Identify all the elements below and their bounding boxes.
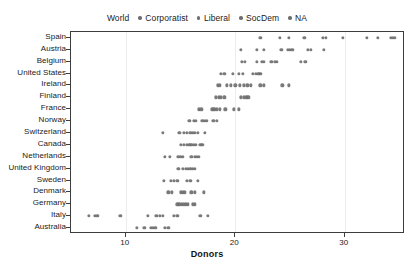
data-point[interactable] [168, 155, 171, 158]
data-point[interactable] [262, 48, 265, 51]
data-point[interactable] [259, 72, 262, 75]
data-point[interactable] [262, 60, 265, 63]
y-axis-tick-label: Spain [45, 33, 66, 41]
y-axis-tick [66, 96, 70, 97]
data-point[interactable] [206, 215, 209, 218]
data-point[interactable] [225, 84, 228, 87]
data-point[interactable] [162, 179, 165, 182]
data-point[interactable] [146, 215, 149, 218]
data-point[interactable] [194, 143, 197, 146]
x-axis-title: Donors [0, 249, 414, 259]
data-point[interactable] [259, 36, 262, 39]
data-point[interactable] [193, 203, 196, 206]
y-axis-tick-label: Netherlands [22, 152, 66, 160]
data-point[interactable] [218, 84, 221, 87]
data-point[interactable] [223, 72, 226, 75]
data-point[interactable] [287, 36, 290, 39]
data-point[interactable] [324, 36, 327, 39]
legend-title: World [107, 13, 130, 23]
data-point[interactable] [247, 96, 250, 99]
y-axis-tick-label: Belgium [37, 57, 66, 65]
data-point[interactable] [229, 84, 232, 87]
data-point[interactable] [287, 84, 290, 87]
data-point[interactable] [256, 60, 259, 63]
data-point[interactable] [154, 226, 157, 229]
data-point[interactable] [183, 191, 186, 194]
data-point[interactable] [196, 179, 199, 182]
data-point[interactable] [239, 48, 242, 51]
data-point[interactable] [161, 215, 164, 218]
data-point[interactable] [193, 167, 196, 170]
data-point[interactable] [205, 119, 208, 122]
data-point[interactable] [393, 36, 396, 39]
data-point[interactable] [181, 155, 184, 158]
y-axis-tick [66, 108, 70, 109]
data-point[interactable] [243, 60, 246, 63]
x-axis-tick-label: 30 [339, 238, 348, 247]
data-point[interactable] [164, 155, 167, 158]
data-point[interactable] [177, 167, 180, 170]
data-point[interactable] [275, 60, 278, 63]
data-point[interactable] [200, 108, 203, 111]
data-point[interactable] [365, 36, 368, 39]
x-axis-tick [125, 233, 126, 237]
data-point[interactable] [188, 119, 191, 122]
data-point[interactable] [218, 108, 221, 111]
legend-entry-corporatist[interactable]: Corporatist [138, 13, 188, 23]
data-point[interactable] [189, 179, 192, 182]
data-point[interactable] [197, 155, 200, 158]
y-axis-tick-label: Denmark [33, 187, 66, 195]
data-point[interactable] [119, 215, 122, 218]
data-point[interactable] [143, 226, 146, 229]
data-point[interactable] [96, 215, 99, 218]
legend-entry-liberal[interactable]: Liberal [197, 13, 230, 23]
data-point[interactable] [237, 108, 240, 111]
legend-entry-socdem[interactable]: SocDem [239, 13, 279, 23]
data-point[interactable] [309, 48, 312, 51]
y-axis-tick [66, 84, 70, 85]
data-point[interactable] [322, 48, 325, 51]
data-point[interactable] [249, 84, 252, 87]
data-point[interactable] [170, 191, 173, 194]
data-point[interactable] [234, 84, 237, 87]
data-point[interactable] [256, 48, 259, 51]
data-point[interactable] [231, 72, 234, 75]
x-axis-tick-label: 20 [230, 238, 239, 247]
data-point[interactable] [176, 215, 179, 218]
data-point[interactable] [194, 119, 197, 122]
data-point[interactable] [279, 36, 282, 39]
data-point[interactable] [196, 131, 199, 134]
data-point[interactable] [167, 226, 170, 229]
data-point[interactable] [135, 226, 138, 229]
y-axis-tick [66, 144, 70, 145]
data-point[interactable] [201, 143, 204, 146]
data-point[interactable] [176, 179, 179, 182]
y-axis: SpainAustriaBelgiumUnited StatesIrelandF… [0, 31, 66, 233]
data-point[interactable] [178, 131, 181, 134]
legend-entry-na[interactable]: NA [288, 13, 307, 23]
y-axis-tick [66, 73, 70, 74]
data-point[interactable] [376, 36, 379, 39]
data-point[interactable] [161, 131, 164, 134]
data-point[interactable] [187, 203, 190, 206]
data-point[interactable] [193, 191, 196, 194]
data-point[interactable] [281, 84, 284, 87]
data-point[interactable] [241, 72, 244, 75]
data-point[interactable] [341, 36, 344, 39]
data-point[interactable] [304, 60, 307, 63]
data-point[interactable] [303, 36, 306, 39]
data-point[interactable] [87, 215, 90, 218]
data-point[interactable] [238, 84, 241, 87]
gridline [126, 32, 127, 232]
data-point[interactable] [224, 108, 227, 111]
data-point[interactable] [280, 48, 283, 51]
data-point[interactable] [215, 119, 218, 122]
data-point[interactable] [202, 191, 205, 194]
data-point[interactable] [262, 84, 265, 87]
data-point[interactable] [299, 60, 302, 63]
data-point[interactable] [199, 215, 202, 218]
data-point[interactable] [291, 48, 294, 51]
data-point[interactable] [237, 72, 240, 75]
data-point[interactable] [203, 131, 206, 134]
data-point[interactable] [223, 96, 226, 99]
